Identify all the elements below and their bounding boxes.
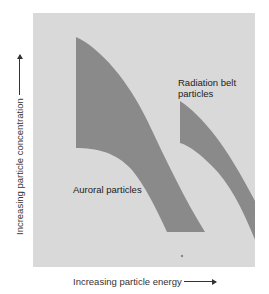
radiation-belt-label-line1: Radiation belt bbox=[178, 77, 236, 88]
y-axis-label-text: Increasing particle concentration bbox=[14, 98, 25, 235]
diagram-plot-area bbox=[0, 0, 269, 294]
radiation-belt-label-line2: particles bbox=[178, 88, 236, 99]
radiation-belt-label: Radiation belt particles bbox=[178, 77, 236, 99]
diagram-figure: Radiation belt particles Auroral particl… bbox=[0, 0, 269, 294]
x-axis-label: Increasing particle energy bbox=[73, 276, 216, 287]
arrow-right-icon bbox=[184, 281, 216, 282]
arrow-up-icon bbox=[19, 55, 20, 95]
x-axis-label-text: Increasing particle energy bbox=[73, 276, 182, 287]
speck-mark bbox=[181, 255, 183, 257]
y-axis-label: Increasing particle concentration bbox=[14, 55, 25, 235]
auroral-particles-label: Auroral particles bbox=[73, 184, 142, 195]
